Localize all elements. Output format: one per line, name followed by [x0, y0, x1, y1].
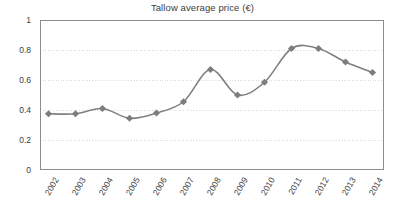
y-tick-label: 0.2 [1, 136, 31, 145]
data-point-marker[interactable] [72, 110, 79, 117]
data-point-marker[interactable] [207, 66, 214, 73]
y-tick-label: 0 [1, 166, 31, 175]
plot-svg [40, 20, 384, 170]
y-tick-label: 0.4 [1, 106, 31, 115]
chart-title: Tallow average price (€) [0, 2, 405, 13]
y-tick-label: 0.6 [1, 76, 31, 85]
data-line [49, 45, 373, 118]
data-point-marker[interactable] [153, 109, 160, 116]
data-point-marker[interactable] [126, 115, 133, 122]
data-point-marker[interactable] [315, 45, 322, 52]
y-tick-label: 0.8 [1, 46, 31, 55]
chart-container: Tallow average price (€) 00.20.40.60.81 … [0, 0, 405, 215]
data-point-marker[interactable] [45, 110, 52, 117]
data-point-marker[interactable] [369, 69, 376, 76]
data-point-marker[interactable] [234, 91, 241, 98]
y-axis: 00.20.40.60.81 [0, 0, 40, 190]
data-point-marker[interactable] [342, 58, 349, 65]
y-tick-label: 1 [1, 16, 31, 25]
data-point-marker[interactable] [99, 105, 106, 112]
plot-area [40, 20, 384, 170]
